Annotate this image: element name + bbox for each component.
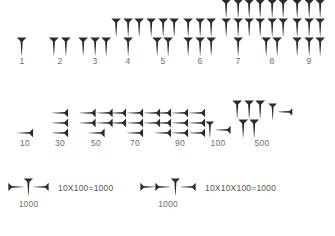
numeral-label: 50 [91,138,101,148]
row-tens: 1030507090100500 [0,82,335,162]
numeral-label: 6 [198,56,203,66]
numeral-label: 8 [270,56,275,66]
vertical-wedge-glyph [122,18,133,37]
vertical-wedge-glyph [315,0,326,18]
vertical-wedge-glyph [49,37,60,56]
vertical-wedge-cluster [255,0,290,56]
vertical-wedge-cluster [111,18,146,56]
vertical-wedge-glyph [221,0,232,18]
horizontal-wedge-cluster [155,108,206,138]
horizontal-wedge-glyph [189,128,206,138]
vertical-wedge-glyph [238,119,249,138]
wedge-line [79,118,113,128]
row-units: 123456789 [0,0,335,80]
numeral-label: 5 [161,56,166,66]
wedge-line [238,119,261,138]
horizontal-wedge-glyph [52,108,69,118]
units-labels: 123456789 [0,56,335,72]
horizontal-wedge-glyph [172,108,189,118]
numeral-label: 70 [130,138,140,148]
numeral-cell-2 [49,37,72,56]
numeral-cell-4 [111,18,146,56]
vertical-wedge-glyph [303,0,314,18]
vertical-wedge-glyph [278,0,289,18]
horizontal-wedge-glyph [33,182,49,192]
thousand-glyph-group: 1000 [140,178,196,209]
horizontal-wedge-glyph [110,118,127,128]
horizontal-wedge-glyph [127,118,144,128]
vertical-wedge-glyph [221,18,232,37]
vertical-wedge-glyph [244,18,255,37]
horizontal-wedge-glyph-mirrored [155,182,171,192]
vertical-wedge-glyph [266,18,277,37]
vertical-wedge-glyph [255,100,266,119]
vertical-wedge-cluster [146,18,181,56]
hundred-sign [205,121,231,138]
vertical-wedge-cluster [183,18,218,56]
horizontal-wedge-glyph [172,118,189,128]
numeral-cell-90 [155,108,206,138]
vertical-wedge-glyph [303,37,314,56]
thousand-equation: 10X100=1000 [58,183,113,193]
vertical-wedge-glyph [152,37,163,56]
horizontal-wedge-glyph [189,108,206,118]
vertical-wedge-glyph [111,18,122,37]
vertical-wedge-glyph [157,18,168,37]
row-thousands: 100010X100=1000100010X10X100=1000 [0,170,335,236]
numeral-cell-3 [78,37,113,56]
horizontal-wedge-glyph [52,128,69,138]
vertical-wedge-glyph [315,18,326,37]
numeral-label: 1 [20,56,25,66]
horizontal-wedge-glyph [17,128,34,138]
horizontal-wedge-glyph [127,128,144,138]
vertical-wedge-glyph [183,18,194,37]
vertical-wedge-glyph [169,18,180,37]
wedge-line [155,108,206,118]
vertical-wedge-cluster [49,37,72,56]
horizontal-wedge-glyph [215,125,231,135]
vertical-wedge-cluster [292,0,327,56]
vertical-wedge-glyph [292,37,303,56]
thousand-formula-2: 100010X10X100=1000 [140,178,276,209]
numeral-cell-100 [205,121,231,138]
thousand-glyph-group: 1000 [8,178,49,209]
wedge-line [111,18,146,37]
vertical-wedge-glyph [16,37,27,56]
horizontal-wedge-glyph [277,107,292,117]
vertical-wedge-glyph [122,37,133,56]
numeral-cell-70 [110,108,161,138]
vertical-wedge-glyph [60,37,71,56]
vertical-wedge-glyph [255,18,266,37]
wedge-line [78,37,113,56]
numeral-cell-500 [232,100,293,138]
vertical-wedge-glyph [255,0,266,18]
wedge-line [232,37,244,56]
vertical-wedge-glyph [292,0,303,18]
vertical-wedge-glyph [272,37,283,56]
vertical-wedge-glyph [194,18,205,37]
vertical-wedge-glyph [292,18,303,37]
horizontal-wedge-glyph [189,118,206,128]
numeral-cell-5 [146,18,181,56]
wedge-line [88,128,105,138]
horizontal-wedge-glyph [52,118,69,128]
numeral-label: 2 [58,56,63,66]
vertical-wedge-glyph [232,100,243,119]
wedge-line [152,37,175,56]
wedge-line [110,118,161,128]
horizontal-wedge-glyph [180,182,196,192]
tens-glyph-cells [0,82,335,138]
vertical-wedge-glyph [232,18,243,37]
numeral-label: 90 [175,138,185,148]
vertical-wedge-glyph [146,18,157,37]
numeral-cell-8 [255,0,290,56]
horizontal-wedge-glyph [172,128,189,138]
numeral-label: 3 [93,56,98,66]
wedge-line [183,18,218,37]
numeral-label: 4 [126,56,131,66]
numeral-label: 100 [211,138,226,148]
wedge-line [155,128,206,138]
horizontal-wedge-cluster [52,108,69,138]
vertical-wedge-glyph [315,37,326,56]
vertical-wedge-cluster [16,37,28,56]
